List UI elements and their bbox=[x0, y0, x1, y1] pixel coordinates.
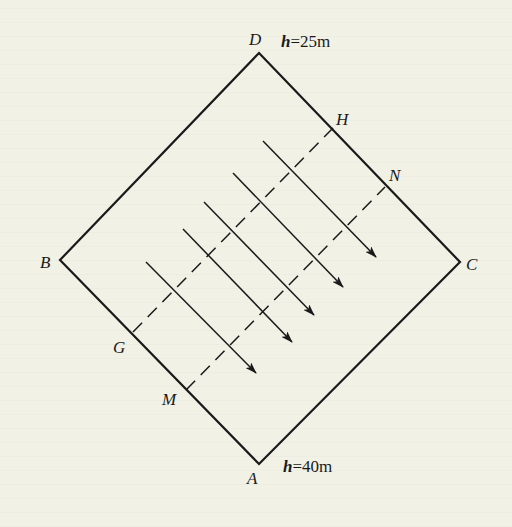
height-value-top: =25m bbox=[290, 32, 330, 51]
point-label-g: G bbox=[113, 339, 125, 356]
flow-arrows bbox=[146, 141, 376, 373]
vertex-label-d: D bbox=[249, 31, 261, 48]
vertex-label-a: A bbox=[247, 470, 257, 487]
point-label-m: M bbox=[162, 391, 176, 408]
flow-arrow-2 bbox=[183, 229, 292, 342]
flow-arrow-1 bbox=[146, 262, 256, 373]
point-label-n: N bbox=[389, 167, 400, 184]
vertex-label-c: C bbox=[466, 256, 477, 273]
dashed-line-mn bbox=[186, 187, 385, 390]
height-value-bottom: =40m bbox=[292, 457, 332, 476]
diagram-canvas: D h=25m B C A h=40m H N G M bbox=[0, 0, 512, 527]
height-label-top: h=25m bbox=[281, 33, 330, 50]
flow-arrow-3 bbox=[204, 202, 314, 315]
point-label-h: H bbox=[336, 111, 348, 128]
dashed-line-gh bbox=[133, 128, 333, 332]
flow-arrow-4 bbox=[233, 173, 343, 287]
vertex-label-b: B bbox=[40, 254, 50, 271]
height-label-bottom: h=40m bbox=[283, 458, 332, 475]
diagram-svg bbox=[0, 0, 512, 527]
